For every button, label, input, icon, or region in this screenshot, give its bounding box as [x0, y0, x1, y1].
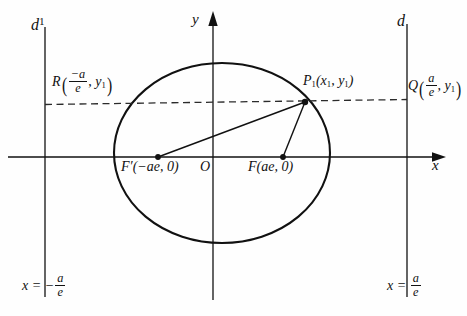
directrix-left-label: d1 [31, 16, 45, 33]
x-axis-label: x [432, 158, 439, 173]
focal-radius-f [283, 102, 305, 157]
point-p1-dot [302, 99, 308, 105]
figure-canvas: d1 d y x O R(−ae, y1) Q(ae, y1) P1(x1, y… [0, 0, 467, 316]
directrix-left-equation: x = −ae [22, 272, 66, 298]
directrix-right-equation: x = ae [387, 272, 422, 298]
y-axis [208, 11, 217, 300]
point-p1-label: P1(x1, y1) [303, 74, 353, 89]
directrix-right-label: d [397, 13, 405, 29]
point-q-label: Q(ae, y1) [408, 72, 462, 101]
ellipse-diagram [0, 0, 467, 316]
focus-right-label: F(ae, 0) [248, 160, 293, 174]
ellipse-curve [114, 63, 330, 243]
x-axis [8, 152, 446, 162]
dashed-focal-chord [45, 100, 407, 105]
origin-label: O [200, 160, 210, 174]
y-axis-label: y [192, 12, 199, 27]
focus-left-label: F′(−ae, 0) [121, 160, 179, 174]
point-r-label: R(−ae, y1) [52, 68, 113, 97]
focal-radius-f-prime [158, 102, 305, 157]
